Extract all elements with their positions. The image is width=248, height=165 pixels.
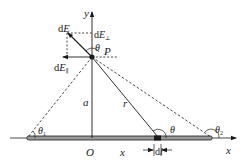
x-axis-label: x bbox=[225, 144, 231, 156]
dE-perp-label: dE⊥ bbox=[94, 29, 111, 41]
point-P-label: P bbox=[103, 45, 111, 57]
origin-label: O bbox=[86, 146, 94, 158]
theta2-label: θ2 bbox=[215, 124, 223, 136]
length-r-label: r bbox=[123, 97, 128, 109]
length-a-label: a bbox=[83, 96, 89, 108]
dE-label: dE bbox=[58, 23, 70, 34]
y-axis-label: y bbox=[83, 7, 89, 19]
dE-vector bbox=[68, 33, 92, 57]
theta1-label: θ1 bbox=[38, 125, 46, 137]
dE-parallel-label: dE∥ bbox=[54, 62, 69, 74]
theta-at-dl-label: θ bbox=[170, 124, 175, 135]
charged-line-field-diagram: y x O P dE dE⊥ dE∥ θ a r x dl θ1 θ θ2 bbox=[0, 0, 248, 165]
point-P bbox=[89, 54, 94, 59]
dl-label: dl bbox=[155, 146, 163, 157]
charged-rod bbox=[27, 136, 212, 140]
dashed-line-right-end bbox=[92, 57, 211, 137]
theta-at-P-label: θ bbox=[95, 42, 100, 53]
length-x-label: x bbox=[119, 146, 125, 158]
